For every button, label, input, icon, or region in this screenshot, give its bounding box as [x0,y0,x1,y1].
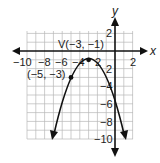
parabola-graph: x y −10 −8 −6 −4 2 2 2 2 −4 −6 −8 −10 V(… [0,0,160,163]
y-tick-label: 2 [106,27,112,39]
y-axis-label: y [111,4,119,18]
x-tick-label: −8 [38,56,51,68]
x-tick-label: −10 [13,56,32,68]
x-axis-right-arrow-icon [140,47,148,55]
y-axis-down-arrow-icon [111,148,119,157]
x-axis-left-arrow-icon [12,47,20,55]
y-axis-up-arrow-icon [111,17,119,26]
y-tick-label: −8 [100,116,113,128]
parabola-left-arrow-icon [50,130,58,140]
point-annotation: (−5, −3) [27,68,66,80]
x-tick-label: 2 [130,56,136,68]
vertex-point [86,57,91,62]
y-tick-label: 2 [106,63,112,75]
x-tick-labels: −10 −8 −6 −4 2 2 [13,56,136,68]
x-axis-label: x [149,44,157,58]
x-tick-label: −6 [55,56,68,68]
vertex-annotation: V(−3, −1) [58,38,104,50]
y-tick-label: −10 [94,133,113,145]
y-tick-label: −6 [100,98,113,110]
point-minus5-minus3 [69,75,74,80]
